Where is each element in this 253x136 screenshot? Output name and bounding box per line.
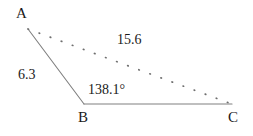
vertex-label-a: A [16,6,27,21]
side-length-ac: 15.6 [117,33,142,47]
vertex-label-b: B [78,110,88,125]
segment-ab [28,29,84,104]
triangle-figure: A B C 6.3 15.6 138.1° [0,0,253,136]
triangle-drawing [0,0,253,136]
angle-measure-b: 138.1° [88,83,125,97]
side-length-ab: 6.3 [18,68,36,82]
vertex-label-c: C [228,110,238,125]
